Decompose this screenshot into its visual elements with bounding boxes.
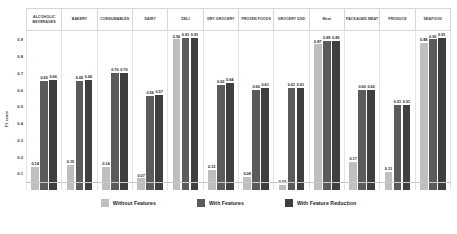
category-header-alcoholic-beverages: ALCOHOLIC BEVERAGES bbox=[26, 8, 61, 31]
bar-value-label: 0.17 bbox=[349, 156, 356, 161]
y-axis-tick-label: 0.3 bbox=[17, 137, 23, 142]
category-header-band: ALCOHOLIC BEVERAGESBAKERYCONSUMABLESDAIR… bbox=[26, 8, 451, 31]
bar: 0.66 bbox=[49, 80, 57, 190]
bar: 0.89 bbox=[323, 41, 331, 190]
bar-value-label: 0.15 bbox=[67, 159, 74, 164]
bar: 0.60 bbox=[367, 90, 375, 190]
bar: 0.60 bbox=[358, 90, 366, 190]
bar: 0.91 bbox=[438, 38, 446, 190]
bar-value-label: 0.51 bbox=[403, 99, 410, 104]
bar-value-label: 0.88 bbox=[420, 37, 427, 42]
bar-group: 0.170.600.60 bbox=[344, 31, 379, 190]
y-axis-tick-label: 0.9 bbox=[17, 37, 23, 42]
bar: 0.90 bbox=[429, 39, 437, 190]
bar-group: 0.880.900.91 bbox=[415, 31, 451, 190]
axis-baseline bbox=[26, 182, 451, 183]
bar: 0.51 bbox=[394, 105, 402, 190]
bar: 0.63 bbox=[217, 85, 225, 190]
category-header-frozen-foods: FROZEN FOODS bbox=[238, 8, 273, 31]
legend-swatch bbox=[285, 199, 293, 207]
bar-value-label: 0.70 bbox=[120, 67, 127, 72]
category-header-produce: PRODUCE bbox=[379, 8, 414, 31]
y-axis-tick-label: 0.5 bbox=[17, 104, 23, 109]
category-header-dry-grocery: DRY GROCERY bbox=[203, 8, 238, 31]
legend-label: With Feature Reduction bbox=[297, 200, 356, 206]
bar-value-label: 0.65 bbox=[76, 75, 83, 80]
y-axis-tick-label: 0.2 bbox=[17, 154, 23, 159]
bar: 0.87 bbox=[314, 44, 322, 190]
bar: 0.65 bbox=[40, 81, 48, 190]
bar: 0.12 bbox=[208, 170, 216, 190]
bar-value-label: 0.63 bbox=[217, 79, 224, 84]
bar-value-label: 0.14 bbox=[102, 161, 109, 166]
bar-group: 0.110.510.51 bbox=[379, 31, 414, 190]
category-header-bakery: BAKERY bbox=[61, 8, 96, 31]
bar-group: 0.140.650.66 bbox=[26, 31, 61, 190]
bar-groups: 0.140.650.660.150.650.660.140.700.700.07… bbox=[26, 31, 451, 190]
y-axis-tick-label: 0.6 bbox=[17, 87, 23, 92]
bar: 0.56 bbox=[146, 96, 154, 190]
bar-value-label: 0.90 bbox=[173, 34, 180, 39]
bar: 0.57 bbox=[155, 95, 163, 190]
bar-value-label: 0.61 bbox=[297, 82, 304, 87]
bar: 0.70 bbox=[111, 73, 119, 190]
category-header-dairy: DAIRY bbox=[132, 8, 167, 31]
bar: 0.65 bbox=[76, 81, 84, 190]
legend-item: With Features bbox=[197, 199, 244, 207]
legend-label: With Features bbox=[209, 200, 244, 206]
bar: 0.14 bbox=[31, 167, 39, 190]
bar-value-label: 0.89 bbox=[332, 35, 339, 40]
bar-group: 0.900.910.91 bbox=[167, 31, 202, 190]
bar-value-label: 0.60 bbox=[252, 84, 259, 89]
chart-legend: Without FeaturesWith FeaturesWith Featur… bbox=[0, 199, 457, 207]
bar-value-label: 0.61 bbox=[288, 82, 295, 87]
bar-value-label: 0.91 bbox=[191, 32, 198, 37]
y-axis-tick-label: 0.7 bbox=[17, 70, 23, 75]
bar-value-label: 0.66 bbox=[49, 74, 56, 79]
bar-value-label: 0.11 bbox=[385, 166, 392, 171]
bar: 0.89 bbox=[332, 41, 340, 190]
bar-value-label: 0.90 bbox=[429, 34, 436, 39]
category-header-packaged-meat: PACKAGED MEAT bbox=[344, 8, 379, 31]
y-axis-tick-label: 0.8 bbox=[17, 54, 23, 59]
bar-group: 0.080.600.61 bbox=[238, 31, 273, 190]
bar-value-label: 0.56 bbox=[146, 90, 153, 95]
category-header-meat: Meat bbox=[309, 8, 344, 31]
bar: 0.15 bbox=[67, 165, 75, 190]
bar-group: 0.120.630.64 bbox=[203, 31, 238, 190]
y-axis-tick-label: 0.4 bbox=[17, 121, 23, 126]
bar: 0.60 bbox=[252, 90, 260, 190]
bar-group: 0.150.650.66 bbox=[61, 31, 96, 190]
bar-group: 0.870.890.89 bbox=[309, 31, 344, 190]
bar: 0.14 bbox=[102, 167, 110, 190]
legend-item: Without Features bbox=[101, 199, 156, 207]
bar-value-label: 0.07 bbox=[137, 173, 144, 178]
bar-value-label: 0.91 bbox=[182, 32, 189, 37]
bar-value-label: 0.51 bbox=[394, 99, 401, 104]
category-header-grocery-dsd: GROCERY DSD bbox=[273, 8, 308, 31]
y-axis: F1 score 0.90.80.70.60.50.40.30.20.1 bbox=[0, 31, 26, 190]
bar: 0.66 bbox=[85, 80, 93, 190]
bar-value-label: 0.89 bbox=[323, 35, 330, 40]
category-header-seafood: SEAFOOD bbox=[415, 8, 451, 31]
bar: 0.91 bbox=[191, 38, 199, 190]
bar: 0.91 bbox=[182, 38, 190, 190]
y-axis-title: F1 score bbox=[5, 99, 9, 139]
bar-value-label: 0.60 bbox=[358, 84, 365, 89]
legend-item: With Feature Reduction bbox=[285, 199, 356, 207]
bar: 0.61 bbox=[288, 88, 296, 190]
bar-value-label: 0.91 bbox=[438, 32, 445, 37]
bar-value-label: 0.61 bbox=[261, 82, 268, 87]
y-axis-tick-label: 0.1 bbox=[17, 171, 23, 176]
plot-area: ALCOHOLIC BEVERAGESBAKERYCONSUMABLESDAIR… bbox=[26, 8, 451, 190]
bar-value-label: 0.64 bbox=[226, 77, 233, 82]
bar: 0.07 bbox=[137, 178, 145, 190]
category-header-consumables: CONSUMABLES bbox=[97, 8, 132, 31]
bar-group: 0.140.700.70 bbox=[97, 31, 132, 190]
bar-chart-figure: F1 score 0.90.80.70.60.50.40.30.20.1 ALC… bbox=[0, 0, 457, 234]
legend-swatch bbox=[101, 199, 109, 207]
bar: 0.03 bbox=[279, 185, 287, 190]
bar: 0.88 bbox=[420, 43, 428, 190]
bar-value-label: 0.87 bbox=[314, 39, 321, 44]
bar-group: 0.030.610.61 bbox=[273, 31, 308, 190]
